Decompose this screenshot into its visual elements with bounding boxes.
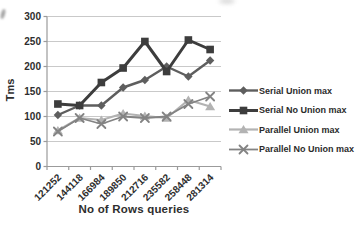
square-marker-icon [229, 104, 258, 117]
diamond-marker-icon [239, 87, 247, 95]
legend-item: Parallel Union max [229, 120, 354, 140]
chart-figure: 0501001502002503001212521441181669841898… [0, 0, 361, 233]
series-serial-union-max [54, 56, 215, 119]
y-tick-label: 300 [24, 11, 41, 22]
x-marker-icon [229, 143, 258, 156]
data-point-x-icon [206, 93, 214, 101]
data-point-square-icon [206, 46, 214, 54]
y-tick-label: 150 [24, 86, 41, 97]
y-tick-label: 200 [24, 61, 41, 72]
legend-label: Serial Union max [259, 86, 332, 96]
legend: Serial Union maxSerial No Union maxParal… [229, 81, 354, 159]
y-tick-label: 100 [24, 111, 41, 122]
data-point-square-icon [119, 64, 127, 72]
data-point-square-icon [54, 100, 62, 108]
y-axis-title: Tms [4, 73, 16, 107]
legend-item: Serial Union max [229, 81, 354, 101]
square-marker-icon [240, 106, 248, 114]
x-axis-title: No of Rows queries [47, 203, 221, 215]
triangle-marker-icon [229, 123, 258, 136]
legend-item: Serial No Union max [229, 101, 354, 121]
legend-item: Parallel No Union max [229, 140, 354, 160]
legend-label: Serial No Union max [259, 105, 347, 115]
data-point-square-icon [141, 38, 149, 46]
data-point-square-icon [163, 68, 171, 76]
y-tick-label: 50 [30, 136, 42, 147]
diamond-marker-icon [229, 84, 258, 97]
y-tick-label: 250 [24, 36, 41, 47]
data-point-square-icon [185, 36, 193, 44]
y-tick-label: 0 [35, 161, 41, 172]
series-line [58, 40, 210, 106]
data-point-diamond-icon [54, 111, 62, 119]
data-point-square-icon [76, 102, 84, 110]
legend-label: Parallel No Union max [259, 144, 354, 154]
data-point-square-icon [98, 79, 106, 87]
legend-label: Parallel Union max [259, 125, 340, 135]
